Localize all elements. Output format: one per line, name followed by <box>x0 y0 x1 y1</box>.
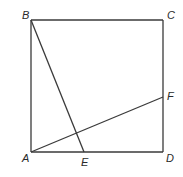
square-ABCD <box>31 20 163 152</box>
label-point-f: F <box>167 90 175 102</box>
segment-BE <box>31 20 84 152</box>
label-point-d: D <box>166 152 174 164</box>
geometry-diagram: A B C D E F <box>0 0 183 177</box>
label-point-b: B <box>22 9 29 21</box>
label-point-c: C <box>167 9 175 21</box>
segment-AF <box>31 97 163 152</box>
label-point-a: A <box>21 152 29 164</box>
label-point-e: E <box>81 156 89 168</box>
